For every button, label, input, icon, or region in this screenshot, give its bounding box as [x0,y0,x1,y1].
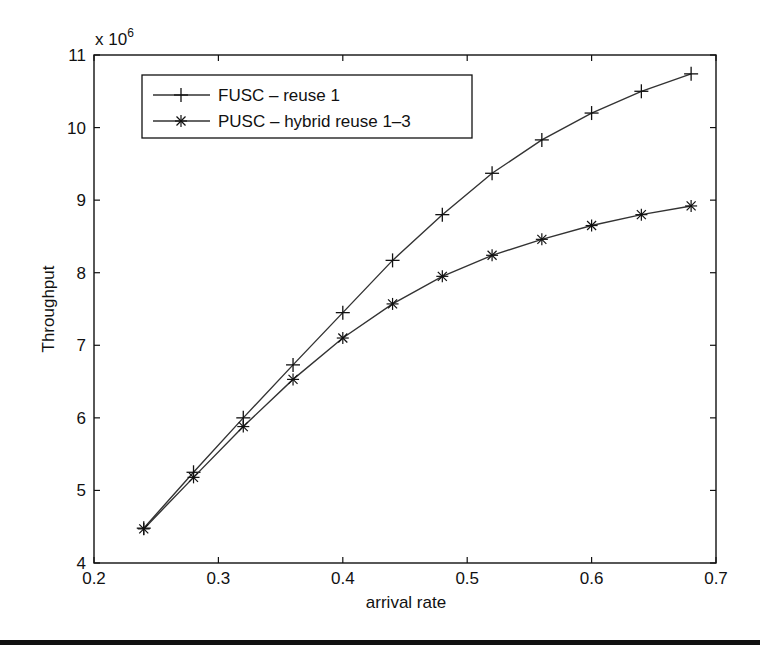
y-tick-label: 11 [68,46,86,65]
y-tick-label: 6 [77,409,86,428]
series-2 [138,200,697,535]
x-tick-label: 0.7 [704,569,728,588]
y-tick-label: 8 [77,264,86,283]
y-tick-label: 7 [77,336,86,355]
legend-label: PUSC – hybrid reuse 1–3 [218,112,411,131]
series-line [144,74,691,528]
line-chart: 0.20.30.40.50.60.74567891011 arrival rat… [0,0,760,651]
y-tick-label: 5 [77,481,86,500]
y-tick-label: 9 [77,191,86,210]
series-line [144,206,691,529]
y-tick-label: 4 [77,554,86,573]
x-tick-label: 0.4 [331,569,355,588]
x-axis-label: arrival rate [366,593,446,612]
x-tick-label: 0.5 [455,569,479,588]
bottom-divider [0,640,760,645]
y-axis-label: Throughput [39,265,58,352]
x-tick-label: 0.3 [207,569,231,588]
legend-label: FUSC – reuse 1 [218,86,340,105]
y-tick-label: 10 [67,119,86,138]
y-multiplier: x 106 [95,26,134,49]
x-tick-label: 0.6 [580,569,604,588]
legend: FUSC – reuse 1PUSC – hybrid reuse 1–3 [142,75,472,138]
